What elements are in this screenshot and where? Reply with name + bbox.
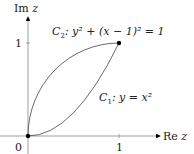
- curve-c1-label: C1: y = x²: [99, 92, 152, 106]
- y-tick-label: 1: [15, 38, 22, 49]
- point-one-plus-i: [117, 41, 121, 45]
- real-axis-label: Re z: [163, 131, 187, 142]
- x-tick-label: 1: [116, 142, 123, 153]
- curve-c2: [28, 43, 119, 136]
- imag-axis-label: Im z: [14, 3, 38, 14]
- curve-c1: [28, 43, 119, 136]
- point-origin: [26, 134, 30, 138]
- origin-label: 0: [15, 142, 22, 153]
- complex-plane-diagram: Im z Re z 1 1 0 C2: y² + (x − 1)² = 1 C1…: [0, 0, 194, 154]
- curve-c2-label: C2: y² + (x − 1)² = 1: [52, 26, 165, 40]
